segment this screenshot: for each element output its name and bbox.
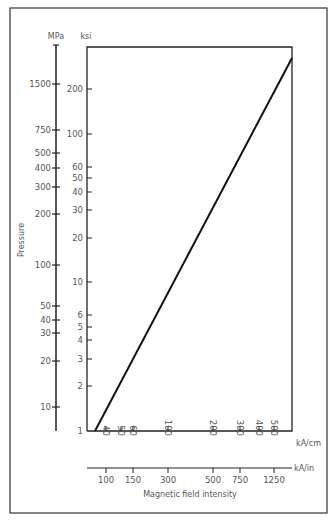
mpa-tick-label: 20 (40, 356, 51, 366)
ksi-unit-label: ksi (80, 32, 91, 41)
pressure-axis-title: Pressure (17, 223, 26, 257)
kain-unit-label: kA/in (294, 464, 314, 473)
mpa-tick-label: 400 (35, 163, 51, 173)
ksi-tick-label: 30 (72, 205, 83, 215)
kain-tick-label: 1250 (263, 475, 285, 485)
ksi-tick-label: 4 (78, 335, 83, 345)
x-axis-title: Magnetic field intensity (143, 490, 237, 499)
ksi-tick-label: 50 (72, 173, 83, 183)
ksi-tick-label: 20 (72, 233, 83, 243)
kacm-tick-label: 50 (116, 425, 126, 436)
mpa-tick-label: 300 (35, 182, 51, 192)
ksi-tick-label: 5 (78, 322, 83, 332)
ksi-tick-label: 2 (78, 381, 83, 391)
kacm-tick-label: 40 (101, 425, 111, 436)
ksi-tick-label: 100 (67, 129, 83, 139)
kacm-tick-label: 300 (235, 420, 245, 436)
ksi-tick-label: 200 (67, 84, 83, 94)
kacm-tick-label: 100 (163, 420, 173, 436)
kacm-unit-label: kA/cm (296, 439, 321, 448)
mpa-tick-label: 10 (40, 402, 51, 412)
mpa-tick-label: 200 (35, 209, 51, 219)
mpa-tick-label: 50 (40, 301, 51, 311)
kain-ticks: 1001503005007501250 (98, 468, 285, 485)
ksi-tick-label: 40 (72, 187, 83, 197)
kain-tick-label: 300 (160, 475, 176, 485)
plot-frame (87, 47, 292, 431)
ksi-tick-label: 60 (72, 162, 83, 172)
ksi-tick-label: 6 (78, 310, 83, 320)
kacm-tick-label: 400 (254, 420, 264, 436)
mpa-tick-label: 1500 (29, 79, 51, 89)
kacm-ticks: 405060100200300400500 (101, 420, 279, 436)
mpa-tick-label: 30 (40, 328, 51, 338)
kain-tick-label: 750 (232, 475, 248, 485)
ksi-ticks: 200100605040302010654321 (67, 84, 92, 436)
kacm-tick-label: 60 (128, 425, 138, 436)
mpa-tick-label: 500 (35, 148, 51, 158)
data-line (95, 58, 292, 431)
mpa-unit-label: MPa (48, 32, 64, 41)
mpa-tick-label: 750 (35, 125, 51, 135)
pressure-field-chart: MPa 15007505004003002001005040302010 Pre… (0, 0, 333, 521)
ksi-tick-label: 10 (72, 277, 83, 287)
kacm-tick-label: 200 (208, 420, 218, 436)
kain-tick-label: 500 (205, 475, 221, 485)
ksi-tick-label: 1 (78, 426, 83, 436)
mpa-tick-label: 100 (35, 260, 51, 270)
kacm-tick-label: 500 (269, 420, 279, 436)
kain-tick-label: 150 (125, 475, 141, 485)
kain-tick-label: 100 (98, 475, 114, 485)
ksi-tick-label: 3 (78, 354, 83, 364)
mpa-tick-label: 40 (40, 315, 51, 325)
